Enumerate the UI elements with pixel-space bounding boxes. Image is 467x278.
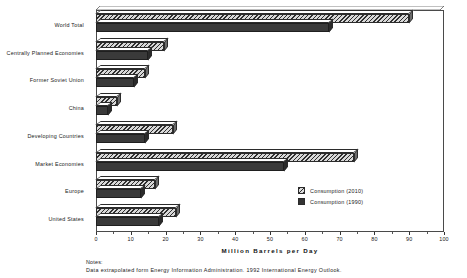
legend-label-2010: Consumption (2010) (310, 188, 363, 194)
notes-block: Notes: Data extrapolated form Energy Inf… (86, 259, 342, 273)
x-tick-label: 10 (128, 236, 134, 242)
x-tick-minor (218, 232, 219, 234)
x-tick-minor (322, 232, 323, 234)
legend-swatch-2010-icon (298, 187, 305, 194)
bar-1990 (96, 189, 146, 203)
category-label: China (69, 105, 84, 111)
bar-1990 (96, 134, 150, 148)
bar-side-face (409, 9, 413, 23)
bar-side-face (329, 18, 333, 32)
category-label: Centrally Planned Economies (7, 50, 84, 56)
bar-front-face (96, 189, 141, 198)
x-tick-label: 60 (302, 236, 308, 242)
notes-heading: Notes: (86, 259, 342, 265)
notes-body: Data extrapolated form Energy Informatio… (86, 267, 342, 273)
x-tick-label: 0 (94, 236, 97, 242)
x-tick-major (409, 232, 410, 235)
bar-1990 (96, 51, 153, 65)
bar-front-face (96, 78, 134, 87)
bar-front-face (96, 134, 145, 143)
bar-front-face (96, 51, 148, 60)
x-tick-label: 40 (232, 236, 238, 242)
x-tick-major (200, 232, 201, 235)
legend-item-consumption-2010[interactable]: Consumption (2010) (298, 186, 363, 195)
legend-swatch-1990-icon (298, 198, 305, 205)
x-tick-minor (392, 232, 393, 234)
x-tick-minor (287, 232, 288, 234)
x-tick-major (96, 232, 97, 235)
bar-side-face (134, 74, 138, 88)
bar-side-face (108, 102, 112, 116)
x-tick-label: 90 (406, 236, 412, 242)
category-label: United States (48, 216, 84, 222)
bars-layer (96, 10, 444, 232)
bar-1990 (96, 78, 139, 92)
x-tick-minor (357, 232, 358, 234)
bar-1990 (96, 217, 164, 231)
x-tick-label: 20 (162, 236, 168, 242)
category-label: World Total (54, 22, 84, 28)
x-tick-label: 50 (267, 236, 273, 242)
bar-side-face (141, 185, 145, 199)
category-label: Market Economies (35, 161, 84, 167)
bar-1990 (96, 106, 113, 120)
legend-label-1990: Consumption (1990) (310, 199, 363, 205)
x-tick-minor (427, 232, 428, 234)
bar-side-face (155, 176, 159, 190)
category-label: Europe (65, 188, 84, 194)
x-axis-title: Million Barrels per Day (96, 247, 444, 254)
x-tick-major (235, 232, 236, 235)
x-tick-major (374, 232, 375, 235)
category-axis-labels: World TotalCentrally Planned EconomiesFo… (0, 10, 88, 232)
x-tick-label: 80 (371, 236, 377, 242)
x-tick-label: 30 (197, 236, 203, 242)
x-tick-major (166, 232, 167, 235)
x-tick-minor (148, 232, 149, 234)
legend: Consumption (2010) Consumption (1990) (298, 186, 363, 208)
x-tick-major (305, 232, 306, 235)
x-tick-minor (113, 232, 114, 234)
x-tick-major (131, 232, 132, 235)
x-tick-label: 70 (336, 236, 342, 242)
bar-1990 (96, 162, 289, 176)
x-axis: 0102030405060708090100 (96, 232, 444, 248)
bar-front-face (96, 217, 159, 226)
x-tick-minor (183, 232, 184, 234)
bar-chart: World TotalCentrally Planned EconomiesFo… (0, 0, 467, 278)
bar-front-face (96, 106, 108, 115)
bar-side-face (176, 204, 180, 218)
bar-front-face (96, 162, 284, 171)
x-tick-label: 100 (439, 236, 449, 242)
x-tick-major (340, 232, 341, 235)
bar-1990 (96, 23, 334, 37)
bar-front-face (96, 23, 329, 32)
x-tick-major (270, 232, 271, 235)
category-label: Former Soviet Union (30, 77, 84, 83)
bar-side-face (145, 65, 149, 79)
x-tick-major (444, 232, 445, 235)
x-tick-minor (253, 232, 254, 234)
category-label: Developing Countries (27, 133, 84, 139)
legend-item-consumption-1990[interactable]: Consumption (1990) (298, 197, 363, 206)
